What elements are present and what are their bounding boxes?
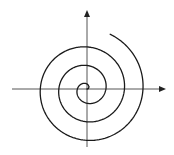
spiral-diagram [0,0,174,155]
